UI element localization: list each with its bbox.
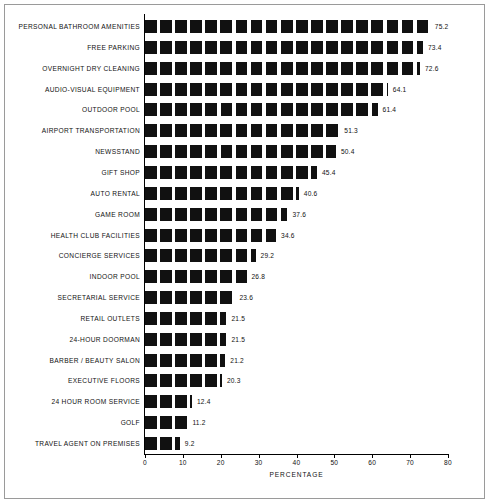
bar-value-label: 72.6 (425, 58, 439, 79)
bar (145, 145, 336, 158)
category-label: OUTDOOR POOL (82, 99, 140, 120)
category-label: AIRPORT TRANSPORTATION (42, 120, 140, 141)
bar-value-label: 21.2 (230, 350, 244, 371)
bar (145, 354, 225, 367)
bar-value-label: 23.6 (239, 287, 253, 308)
bar-value-label: 51.3 (344, 120, 358, 141)
bar (145, 41, 423, 54)
x-axis-tick-label: 80 (433, 459, 463, 466)
bar-row: 24 HOUR ROOM SERVICE12.4 (0, 391, 489, 412)
x-axis-tick (145, 454, 146, 458)
bar (145, 333, 226, 346)
bar-row: HEALTH CLUB FACILITIES34.6 (0, 225, 489, 246)
category-label: HEALTH CLUB FACILITIES (51, 225, 140, 246)
category-label: GIFT SHOP (101, 162, 140, 183)
bar-row: OVERNIGHT DRY CLEANING72.6 (0, 58, 489, 79)
bar (145, 270, 247, 283)
x-axis-tick-label: 20 (206, 459, 236, 466)
bar-row: GOLF11.2 (0, 412, 489, 433)
x-axis-tick-label: 50 (319, 459, 349, 466)
x-axis-tick (183, 454, 184, 458)
bar (145, 291, 234, 304)
x-axis-tick (372, 454, 373, 458)
category-label: PERSONAL BATHROOM AMENITIES (18, 16, 140, 37)
x-axis-tick (259, 454, 260, 458)
bar-row: BARBER / BEAUTY SALON21.2 (0, 350, 489, 371)
bar-row: TRAVEL AGENT ON PREMISES9.2 (0, 433, 489, 454)
bar-value-label: 21.5 (231, 329, 245, 350)
bar-row: INDOOR POOL26.8 (0, 266, 489, 287)
bar (145, 166, 317, 179)
bar (145, 208, 287, 221)
bar-row: RETAIL OUTLETS21.5 (0, 308, 489, 329)
category-label: EXECUTIVE FLOORS (68, 370, 140, 391)
bar-row: SECRETARIAL SERVICE23.6 (0, 287, 489, 308)
bar-row: EXECUTIVE FLOORS20.3 (0, 370, 489, 391)
category-label: GOLF (121, 412, 140, 433)
bar-row: FREE PARKING73.4 (0, 37, 489, 58)
bar-value-label: 11.2 (192, 412, 205, 433)
x-axis-tick (410, 454, 411, 458)
category-label: OVERNIGHT DRY CLEANING (42, 58, 140, 79)
category-label: RETAIL OUTLETS (81, 308, 141, 329)
category-label: GAME ROOM (95, 204, 140, 225)
bar (145, 416, 187, 429)
bar (145, 229, 276, 242)
x-axis-tick-label: 70 (395, 459, 425, 466)
bar (145, 437, 180, 450)
bar (145, 20, 430, 33)
bar-row: PERSONAL BATHROOM AMENITIES75.2 (0, 16, 489, 37)
x-axis-tick-label: 0 (130, 459, 160, 466)
category-label: AUTO RENTAL (91, 183, 140, 204)
bar (145, 103, 378, 116)
bar-value-label: 21.5 (231, 308, 245, 329)
bar-row: AIRPORT TRANSPORTATION51.3 (0, 120, 489, 141)
category-label: SECRETARIAL SERVICE (58, 287, 140, 308)
bar-row: OUTDOOR POOL61.4 (0, 99, 489, 120)
bar (145, 83, 388, 96)
bar-value-label: 64.1 (393, 79, 407, 100)
bar-row: AUDIO-VISUAL EQUIPMENT64.1 (0, 79, 489, 100)
category-label: AUDIO-VISUAL EQUIPMENT (45, 79, 140, 100)
x-axis-tick (448, 454, 449, 458)
bar-value-label: 45.4 (322, 162, 336, 183)
category-label: BARBER / BEAUTY SALON (50, 350, 140, 371)
x-axis-tick-label: 40 (282, 459, 312, 466)
category-label: TRAVEL AGENT ON PREMISES (35, 433, 140, 454)
bar (145, 249, 256, 262)
bar-value-label: 75.2 (435, 16, 449, 37)
horizontal-bar-chart: PERSONAL BATHROOM AMENITIES75.2FREE PARK… (0, 0, 489, 503)
bar (145, 312, 226, 325)
bar-row: GIFT SHOP45.4 (0, 162, 489, 183)
bar (145, 62, 420, 75)
category-label: NEWSSTAND (95, 141, 140, 162)
category-label: FREE PARKING (87, 37, 140, 58)
x-axis-title: PERCENTAGE (144, 471, 449, 478)
bar-value-label: 29.2 (261, 245, 275, 266)
bar-row: NEWSSTAND50.4 (0, 141, 489, 162)
bar-value-label: 12.4 (197, 391, 211, 412)
bar (145, 374, 222, 387)
bar-row: AUTO RENTAL40.6 (0, 183, 489, 204)
bar-value-label: 61.4 (383, 99, 397, 120)
bar-row: CONCIERGE SERVICES29.2 (0, 245, 489, 266)
x-axis-tick-label: 60 (357, 459, 387, 466)
x-axis-tick (297, 454, 298, 458)
bar-value-label: 73.4 (428, 37, 442, 58)
bar-value-label: 9.2 (185, 433, 195, 454)
bar-row: 24-HOUR DOORMAN21.5 (0, 329, 489, 350)
bar-value-label: 37.6 (292, 204, 306, 225)
bar-value-label: 34.6 (281, 225, 295, 246)
x-axis-tick-label: 30 (244, 459, 274, 466)
category-label: 24-HOUR DOORMAN (70, 329, 140, 350)
category-label: 24 HOUR ROOM SERVICE (51, 391, 140, 412)
bar (145, 187, 299, 200)
bar-value-label: 20.3 (227, 370, 241, 391)
bar (145, 124, 339, 137)
x-axis-tick-label: 10 (168, 459, 198, 466)
category-label: CONCIERGE SERVICES (59, 245, 140, 266)
chart-page: PERSONAL BATHROOM AMENITIES75.2FREE PARK… (0, 0, 489, 503)
bar-value-label: 26.8 (252, 266, 266, 287)
x-axis-tick (221, 454, 222, 458)
bar-value-label: 50.4 (341, 141, 355, 162)
